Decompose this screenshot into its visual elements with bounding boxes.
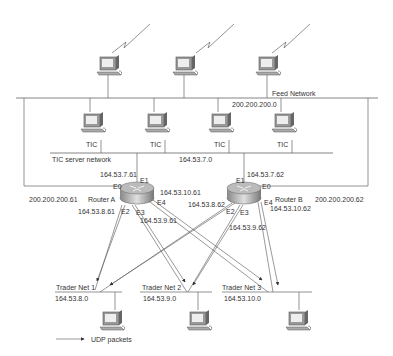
- router-a-e4: E4: [157, 199, 166, 206]
- router-b: [227, 182, 261, 204]
- trader-pc-1: [100, 292, 125, 330]
- router-b-e2: E2: [226, 208, 235, 215]
- router-b-e0: E0: [262, 183, 271, 190]
- router-b-e0-address: 200.200.200.62: [315, 196, 364, 203]
- tic-label-2: TIC: [150, 141, 161, 148]
- router-a-e1-address: 164.53.7.61: [100, 171, 137, 178]
- feed-network-address: 200.200.200.0: [232, 101, 277, 108]
- tic-label-4: TIC: [277, 141, 288, 148]
- tic-label-3: TIC: [214, 141, 225, 148]
- router-b-e3: E3: [240, 209, 249, 216]
- router-b-e1-address: 164.53.7.62: [247, 171, 284, 178]
- tic-server-network-label: TIC server network: [52, 156, 111, 163]
- trader-net-3-label: Trader Net 3: [222, 284, 261, 291]
- trader-net-3-address: 164.53.10.0: [224, 295, 261, 302]
- router-b-e4-address: 164.53.10.62: [270, 205, 311, 212]
- router-a: [120, 182, 154, 204]
- feed-network-label: Feed Network: [272, 90, 316, 97]
- network-diagram: [0, 0, 393, 356]
- trader-pc-2: [187, 292, 212, 330]
- trader-pc-3: [286, 292, 311, 330]
- tic-server-network-address: 164.53.7.0: [179, 156, 212, 163]
- router-a-e3-address: 164.53.9.61: [140, 217, 177, 224]
- trader-net-1-label: Trader Net 1: [56, 284, 95, 291]
- router-b-e3-address: 164.53.9.62: [229, 224, 266, 231]
- legend-label: UDP packets: [91, 336, 132, 343]
- trader-net-1-address: 164.53.8.0: [55, 295, 88, 302]
- router-a-e1: E1: [140, 177, 149, 184]
- router-a-e4-address: 164.53.10.61: [160, 189, 201, 196]
- trader-net-2-address: 164.53.9.0: [143, 295, 176, 302]
- feed-pc-2: [173, 24, 234, 98]
- router-a-e0-address: 200.200.200.61: [29, 196, 78, 203]
- router-a-e3: E3: [136, 209, 145, 216]
- router-b-name: Router B: [275, 196, 303, 203]
- tic-label-1: TIC: [86, 141, 97, 148]
- feed-pc-3: [256, 24, 310, 98]
- router-b-e2-address: 164.53.8.62: [188, 201, 225, 208]
- feed-pc-1: [97, 24, 150, 98]
- router-a-e0: E0: [113, 183, 122, 190]
- router-a-name: Router A: [88, 196, 115, 203]
- router-b-e1: E1: [236, 177, 245, 184]
- router-a-e2: E2: [121, 208, 130, 215]
- trader-net-2-label: Trader Net 2: [142, 284, 181, 291]
- router-a-e2-address: 164.53.8.61: [78, 208, 115, 215]
